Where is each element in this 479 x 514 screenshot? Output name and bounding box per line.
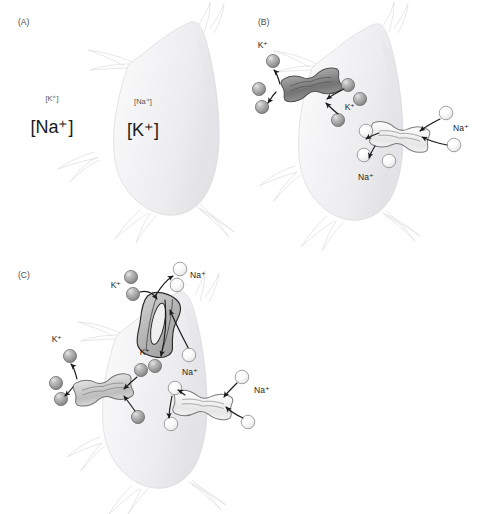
k-ion-inside-b-2 xyxy=(353,92,366,105)
na-ion-inside-c-1 xyxy=(182,348,196,362)
panel-c-k-channel-outside-label: K⁺ xyxy=(52,334,63,344)
ion-transport-diagram: (A) [K⁺] [Na⁺] [Na⁺] [K⁺] xyxy=(0,0,479,514)
panel-a-intracellular-na-label: [Na⁺] xyxy=(134,97,152,106)
k-ion-inside-b-3 xyxy=(331,113,344,126)
k-ion-pump-in-c-1 xyxy=(124,270,137,283)
panel-c-na-cytosol-label: Na⁺ xyxy=(182,367,198,377)
figure-background xyxy=(0,0,479,514)
k-ion-inside-c-3 xyxy=(131,410,144,423)
na-ion-outside-b-2 xyxy=(447,138,461,152)
na-ion-inside-b-2 xyxy=(357,148,371,162)
na-ion-inside-c-3 xyxy=(164,417,178,431)
panel-c-k-cytosol-label: K⁺ xyxy=(140,347,151,357)
panel-b-na-inside-label: Na⁺ xyxy=(358,172,374,182)
figure-container: (A) [K⁺] [Na⁺] [Na⁺] [K⁺] xyxy=(0,0,479,514)
panel-a-intracellular-k-label: [K⁺] xyxy=(127,120,159,140)
panel-c-label: (C) xyxy=(18,270,30,280)
panel-b-k-outside-label: K⁺ xyxy=(258,40,269,50)
na-ion-outside-c-1 xyxy=(235,370,249,384)
na-ion-outside-b-1 xyxy=(439,106,453,120)
k-ion-outside-c-3 xyxy=(54,392,67,405)
k-ion-inside-c-2 xyxy=(148,359,161,372)
k-ion-inside-c-1 xyxy=(134,363,147,376)
panel-c-pump-na-out-label: Na⁺ xyxy=(190,270,206,280)
panel-a-label: (A) xyxy=(18,17,30,27)
panel-c-pump-k-in-label: K⁺ xyxy=(111,280,122,290)
k-ion-outside-b-3 xyxy=(255,100,268,113)
k-ion-outside-c-1 xyxy=(63,349,76,362)
k-ion-outside-b-2 xyxy=(252,82,265,95)
na-ion-outside-c-2 xyxy=(241,415,255,429)
na-ion-pump-out-c-1 xyxy=(173,262,187,276)
na-ion-pump-out-c-2 xyxy=(170,278,184,292)
panel-b-k-inside-label: K⁺ xyxy=(345,102,356,112)
k-ion-outside-c-2 xyxy=(49,376,62,389)
panel-b-label: (B) xyxy=(258,17,270,27)
panel-a-extracellular-na-label: [Na⁺] xyxy=(30,117,73,137)
na-ion-inside-b-3 xyxy=(382,154,396,168)
na-ion-inside-c-2 xyxy=(168,381,182,395)
panel-b-na-outside-label: Na⁺ xyxy=(453,123,469,133)
k-ion-pump-in-c-2 xyxy=(126,287,139,300)
k-ion-outside-b-1 xyxy=(266,54,279,67)
panel-c-na-channel-outside-label: Na⁺ xyxy=(254,385,270,395)
panel-a-extracellular-k-label: [K⁺] xyxy=(45,94,58,103)
